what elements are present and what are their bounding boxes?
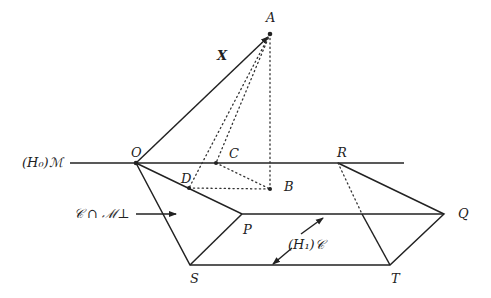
label-a: A <box>265 10 275 25</box>
vector-x-arrow <box>136 37 268 163</box>
segment-r-dotted <box>338 163 362 214</box>
point-b <box>268 187 272 191</box>
label-t: T <box>391 271 401 286</box>
segment-c-b <box>216 163 270 189</box>
label-b: B <box>283 179 294 194</box>
label-c-cap-m-perp: 𝒞 ∩ ℳ⊥ <box>74 206 129 221</box>
label-o: O <box>131 145 142 160</box>
geometry-diagram: A X O C D B R Q P S T (H₀)ℳ 𝒞 ∩ ℳ⊥ (H₁)𝒞 <box>0 0 491 298</box>
label-h1-c: (H₁)𝒞 <box>288 237 328 252</box>
edge-inner-t <box>362 214 390 265</box>
segment-d-b <box>189 188 270 189</box>
label-p: P <box>242 222 252 237</box>
label-c: C <box>229 146 239 161</box>
point-d <box>187 186 191 190</box>
label-s: S <box>190 271 199 286</box>
projection-a-d <box>189 34 270 188</box>
edge-p-s <box>190 214 242 265</box>
h1-arrow-up <box>301 218 323 234</box>
point-o <box>134 161 139 166</box>
label-d: D <box>180 171 192 186</box>
label-q: Q <box>458 206 469 221</box>
label-h0-m: (H₀)ℳ <box>22 155 65 170</box>
point-c <box>214 161 218 165</box>
label-r: R <box>336 145 347 160</box>
label-vector-x: X <box>216 48 228 63</box>
point-a <box>268 32 273 37</box>
